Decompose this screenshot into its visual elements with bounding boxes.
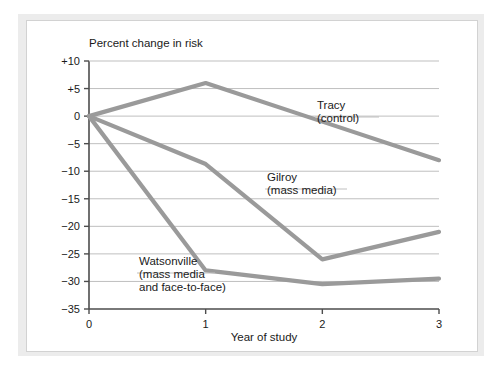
- y-tick-label: −35: [61, 303, 80, 315]
- figure-container: +10+50−5−10−15−20−25−30−35 0123 Percent …: [0, 0, 502, 370]
- x-tick-label: 2: [319, 318, 325, 330]
- x-tick-label: 0: [86, 318, 92, 330]
- line-chart: +10+50−5−10−15−20−25−30−35 0123 Percent …: [27, 21, 477, 351]
- y-tick-label: −15: [61, 193, 80, 205]
- series-line-0: [89, 83, 439, 160]
- series-label-tracy-line2: (control): [317, 112, 359, 124]
- y-tick-label: +10: [61, 55, 80, 67]
- series-label-gilroy-line1: Gilroy: [267, 171, 297, 183]
- y-tick-label: 0: [74, 110, 80, 122]
- series-label-tracy-line1: Tracy: [317, 99, 346, 111]
- y-tick-label: −20: [61, 220, 80, 232]
- chart-card: +10+50−5−10−15−20−25−30−35 0123 Percent …: [26, 20, 478, 352]
- y-axis-ticks-group: +10+50−5−10−15−20−25−30−35: [61, 55, 89, 315]
- series-label-gilroy-line2: (mass media): [267, 184, 337, 196]
- y-tick-label: −30: [61, 275, 80, 287]
- x-axis-ticks-group: 0123: [86, 309, 442, 330]
- x-tick-label: 3: [436, 318, 442, 330]
- x-axis-title: Year of study: [231, 331, 298, 343]
- series-label-watsonville-line2: (mass media: [139, 268, 205, 280]
- y-tick-label: −25: [61, 248, 80, 260]
- series-label-watsonville-line1: Watsonville: [139, 255, 197, 267]
- series-label-watsonville-line3: and face-to-face): [139, 281, 226, 293]
- y-axis-title: Percent change in risk: [89, 37, 203, 49]
- y-tick-label: +5: [67, 83, 80, 95]
- y-tick-label: −10: [61, 165, 80, 177]
- x-tick-label: 1: [203, 318, 209, 330]
- y-tick-label: −5: [67, 138, 80, 150]
